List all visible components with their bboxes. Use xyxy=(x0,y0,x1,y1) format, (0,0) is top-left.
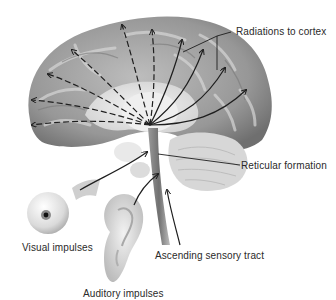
pons-structure xyxy=(130,162,150,178)
brainstem xyxy=(148,128,170,245)
label-radiations-to-cortex: Radiations to cortex xyxy=(236,26,326,37)
eyeball xyxy=(27,179,100,234)
label-visual-impulses: Visual impulses xyxy=(22,242,93,253)
label-ascending-sensory-tract: Ascending sensory tract xyxy=(155,250,264,261)
label-reticular-formation: Reticular formation xyxy=(241,160,327,171)
midbrain-structure xyxy=(114,142,142,162)
label-auditory-impulses: Auditory impulses xyxy=(83,288,164,299)
ascending-arrow xyxy=(167,190,180,245)
ear xyxy=(104,194,143,282)
cerebellum xyxy=(168,133,247,191)
